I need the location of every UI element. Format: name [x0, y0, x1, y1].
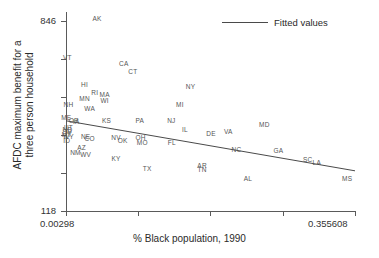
- data-point-mo: MO: [137, 139, 148, 146]
- data-point-fl: FL: [168, 139, 176, 146]
- data-point-ak: AK: [93, 15, 102, 22]
- data-point-ky: KY: [111, 155, 120, 162]
- data-point-ga: GA: [273, 147, 283, 154]
- data-point-nh: NH: [64, 101, 74, 108]
- data-point-ny: NY: [186, 82, 195, 89]
- data-point-nj: NJ: [167, 117, 175, 124]
- legend-line-swatch: [222, 22, 268, 23]
- data-point-mn: MN: [79, 95, 90, 102]
- data-point-nm: NM: [70, 148, 81, 155]
- data-point-md: MD: [259, 120, 270, 127]
- data-point-il: IL: [182, 125, 188, 132]
- x-axis-tick: [355, 211, 356, 216]
- data-point-nc: NC: [232, 146, 242, 153]
- y-axis-title-line2: three person household: [24, 10, 36, 200]
- y-axis-tick-label-min: 118: [41, 206, 56, 216]
- data-point-ia: IA: [73, 118, 80, 125]
- legend-label-fitted-values: Fitted values: [274, 17, 328, 28]
- data-point-id: ID: [63, 137, 70, 144]
- x-axis-tick: [210, 211, 211, 216]
- legend: Fitted values: [222, 17, 328, 28]
- data-point-ms: MS: [342, 174, 352, 181]
- x-axis-tick: [283, 211, 284, 216]
- data-point-wa: WA: [84, 104, 95, 111]
- x-axis-tick: [66, 211, 67, 216]
- data-point-ri: RI: [91, 88, 98, 95]
- data-point-va: VA: [224, 128, 233, 135]
- data-point-pa: PA: [135, 116, 144, 123]
- plot-area: AKVTCACTHIRIMAMNWIWANHNYMIMEORIAUTNDSDMT…: [66, 12, 355, 211]
- y-axis-title: AFDC maximum benefit for a three person …: [12, 10, 36, 200]
- x-axis-tick-label-max: 0.355608: [308, 218, 348, 229]
- data-point-wi: WI: [100, 97, 108, 104]
- x-axis-tick-label-min: 0.00298: [40, 218, 74, 229]
- data-point-ct: CT: [128, 68, 137, 75]
- data-point-mi: MI: [176, 101, 184, 108]
- data-point-la: LA: [313, 158, 321, 165]
- data-point-vt: VT: [63, 54, 72, 61]
- data-point-sc: SC: [303, 156, 312, 163]
- data-point-ca: CA: [119, 59, 128, 66]
- data-point-hi: HI: [81, 81, 88, 88]
- y-axis-title-line1: AFDC maximum benefit for a: [12, 10, 24, 200]
- data-point-tx: TX: [143, 164, 152, 171]
- data-point-co: CO: [85, 135, 95, 142]
- data-point-de: DE: [206, 130, 215, 137]
- data-point-ok: OK: [118, 137, 128, 144]
- y-axis-tick-label-max: 846: [40, 16, 56, 26]
- chart-canvas: 846 118 AFDC maximum benefit for a three…: [0, 0, 379, 258]
- data-point-ks: KS: [102, 117, 111, 124]
- data-point-tn: TN: [198, 165, 207, 172]
- x-axis-tick: [138, 211, 139, 216]
- data-point-wv: WV: [80, 151, 91, 158]
- x-axis-title: % Black population, 1990: [0, 233, 379, 244]
- x-axis-line: [66, 211, 356, 212]
- data-point-al: AL: [244, 174, 252, 181]
- fitted-line: [66, 12, 355, 211]
